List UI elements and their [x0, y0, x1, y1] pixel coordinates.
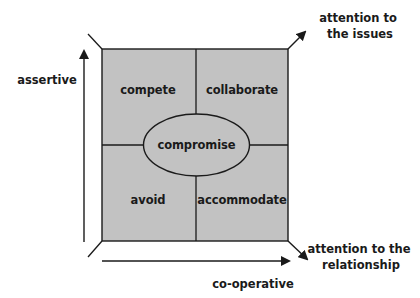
corner-line-bottom-left — [88, 241, 102, 257]
corner-label-relationship: attention to the relationship — [307, 242, 414, 272]
corner-label-issues: attention to the issues — [319, 11, 401, 41]
quadrant-label-avoid: avoid — [131, 193, 166, 207]
corner-label-issues-line1: attention to — [319, 11, 397, 25]
corner-label-relationship-line2: relationship — [322, 258, 400, 272]
center-label-compromise: compromise — [157, 138, 235, 152]
quadrant-label-accommodate: accommodate — [197, 193, 287, 207]
relationship-arrow — [288, 241, 307, 259]
quadrant-label-compete: compete — [120, 83, 176, 97]
corner-line-top-left — [88, 34, 102, 49]
axis-label-assertive: assertive — [17, 73, 77, 87]
corner-label-issues-line2: the issues — [327, 27, 393, 41]
quadrant-label-collaborate: collaborate — [206, 83, 278, 97]
corner-label-relationship-line1: attention to the — [307, 242, 410, 256]
conflict-modes-diagram: compete collaborate compromise avoid acc… — [0, 0, 420, 298]
axis-label-cooperative: co-operative — [212, 277, 294, 291]
issues-arrow — [288, 32, 305, 49]
